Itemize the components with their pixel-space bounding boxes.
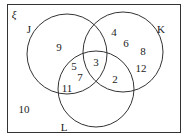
region-j-and-l: 7 (77, 72, 83, 83)
region-j-and-l: 5 (71, 61, 77, 72)
set-label-j: J (27, 24, 31, 35)
region-k-and-l: 2 (112, 74, 118, 85)
region-k-only: 4 (111, 27, 117, 38)
region-k-only: 6 (123, 38, 129, 49)
region-j-k-l: 3 (93, 57, 99, 68)
region-j-only: 9 (56, 42, 62, 53)
region-outside: 10 (19, 104, 30, 115)
region-k-only: 8 (140, 46, 146, 57)
universal-set-symbol: ξ (12, 9, 17, 20)
set-label-k: K (157, 24, 165, 35)
circle-k (83, 12, 163, 92)
set-label-l: L (61, 122, 68, 133)
universal-set-frame (8, 5, 181, 133)
region-k-only: 12 (136, 63, 147, 74)
region-j-and-l: 11 (62, 83, 73, 94)
venn-diagram (0, 0, 185, 136)
